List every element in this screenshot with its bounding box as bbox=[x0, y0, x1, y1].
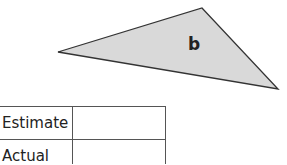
estimate-value-cell[interactable] bbox=[73, 107, 166, 140]
actual-value-cell[interactable] bbox=[73, 140, 166, 165]
estimate-label: Estimate bbox=[0, 107, 73, 140]
estimate-actual-table: Estimate Actual bbox=[0, 106, 166, 164]
table-row-estimate: Estimate bbox=[0, 107, 166, 140]
shape-label: b bbox=[188, 34, 200, 54]
triangle-b-shape: b bbox=[0, 0, 287, 100]
actual-label: Actual bbox=[0, 140, 73, 165]
table-row-actual: Actual bbox=[0, 140, 166, 165]
